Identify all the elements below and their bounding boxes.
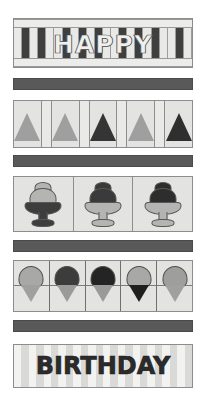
- cone-dark-scoop: [50, 261, 86, 311]
- party-hat-light: [52, 101, 80, 147]
- cone-cone: [165, 285, 185, 302]
- cone-scoop: [126, 266, 151, 287]
- happy-word: HAPPY: [14, 28, 192, 60]
- birthday-word: BIRTHDAY: [14, 345, 192, 387]
- party-hat-light: [14, 101, 42, 147]
- sash-divider-1: [13, 78, 193, 90]
- cone-cone: [129, 285, 149, 302]
- cone-scoop: [162, 266, 187, 287]
- happy-word-band: HAPPY: [13, 18, 193, 68]
- triangle-shape: [14, 113, 40, 141]
- party-hat-dark: [165, 101, 192, 147]
- birthday-word-band: BIRTHDAY: [13, 344, 193, 388]
- sash-divider-2: [13, 155, 193, 167]
- cone-scoop: [19, 266, 44, 287]
- triangle-shape: [166, 113, 192, 141]
- cone-light-scoop: [157, 261, 192, 311]
- ice-cream-cone-band: [13, 260, 193, 312]
- birthday-text: BIRTHDAY: [36, 354, 171, 378]
- triangle-shape: [128, 113, 154, 141]
- triangle-shape: [90, 113, 116, 141]
- artwork-canvas: HAPPY BIRTHDAY: [0, 0, 206, 404]
- happy-text: HAPPY: [53, 32, 153, 57]
- party-hat-light: [127, 101, 155, 147]
- sundae-band: [13, 176, 193, 232]
- sash-divider-3: [13, 240, 193, 252]
- cone-cone: [21, 285, 41, 302]
- party-hat-band: [13, 100, 193, 148]
- sundae-dark-scoop-light-bowl: [74, 177, 134, 231]
- cone-light-scoop: [14, 261, 50, 311]
- sundae-light-scoop-dark-bowl: [14, 177, 74, 231]
- sundae-foot: [92, 219, 115, 227]
- sash-divider-4: [13, 320, 193, 332]
- cone-cone: [93, 285, 113, 302]
- party-hat-dark: [90, 101, 118, 147]
- triangle-shape: [52, 113, 78, 141]
- cone-scoop: [55, 266, 80, 287]
- spacer: [42, 101, 52, 147]
- happy-band-top-rail: [14, 19, 192, 28]
- sundae-foot: [32, 219, 55, 227]
- cone-scoop: [90, 266, 115, 287]
- cone-cone: [57, 285, 77, 302]
- sundae-dark-scoop-light-bowl: [133, 177, 192, 231]
- spacer: [80, 101, 90, 147]
- sundae-foot: [151, 219, 174, 227]
- spacer: [155, 101, 165, 147]
- cone-darkest-scoop: [86, 261, 122, 311]
- cone-light-scoop-dark-cone: [121, 261, 157, 311]
- spacer: [117, 101, 127, 147]
